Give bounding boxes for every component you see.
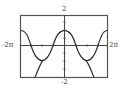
x-min-label: -2π xyxy=(2,42,13,49)
function-plot xyxy=(0,0,124,89)
curve-branch-left xyxy=(35,61,43,78)
x-max-label: 2π xyxy=(109,42,118,49)
y-min-label: -2 xyxy=(61,79,68,86)
curve-branch-right xyxy=(86,61,94,78)
y-max-label: 2 xyxy=(62,6,66,13)
